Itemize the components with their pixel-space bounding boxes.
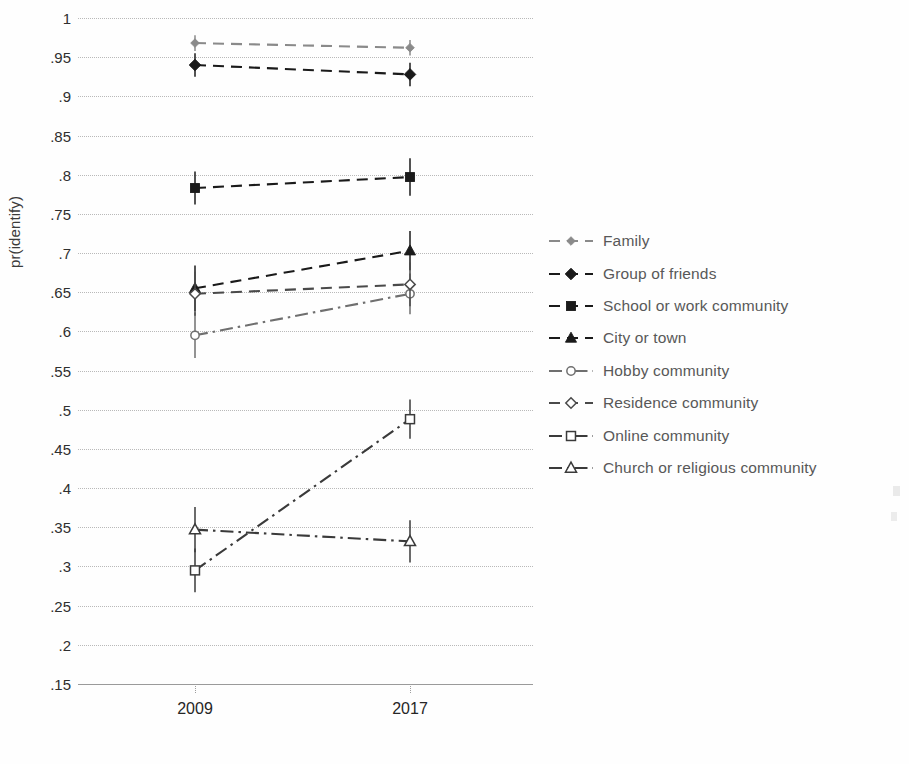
- series-5: [190, 262, 415, 315]
- y-tick-label: 1: [63, 10, 71, 27]
- y-tick-label: .85: [50, 127, 71, 144]
- legend-label: Church or religious community: [594, 459, 817, 477]
- marker-filled-diamond: [565, 268, 577, 280]
- plot-area: 1.95.9.85.8.75.7.65.6.55.5.45.4.35.3.25.…: [78, 0, 533, 700]
- y-tick-label: .8: [58, 166, 71, 183]
- marker-filled-diamond: [189, 59, 201, 71]
- marker-open-diamond: [566, 398, 576, 408]
- series-line: [195, 294, 410, 336]
- y-tick-label: .5: [58, 401, 71, 418]
- legend-symbol-open-triangle-icon: [548, 457, 594, 479]
- legend-symbol-filled-diamond-icon: [548, 263, 594, 285]
- marker-open-circle: [406, 290, 414, 298]
- series-line: [195, 419, 410, 570]
- x-axis-line: [78, 684, 533, 685]
- gridline: [78, 527, 533, 528]
- legend-symbol-filled-square-icon: [548, 295, 594, 317]
- series-4: [191, 273, 414, 358]
- marker-filled-diamond-small: [191, 39, 200, 48]
- legend-label: Family: [594, 232, 650, 250]
- gridline: [78, 410, 533, 411]
- legend-label: Hobby community: [594, 362, 729, 380]
- legend-label: City or town: [594, 329, 687, 347]
- series-2: [191, 158, 415, 204]
- gridline: [78, 606, 533, 607]
- series-line: [195, 530, 410, 542]
- series-line: [195, 251, 410, 289]
- y-tick-label: .65: [50, 284, 71, 301]
- marker-filled-square: [191, 184, 200, 193]
- y-tick-label: .55: [50, 362, 71, 379]
- x-tick-mark: [195, 684, 196, 693]
- legend-item-1[interactable]: Group of friends: [548, 257, 900, 289]
- marker-filled-square: [567, 301, 576, 310]
- gridline: [78, 566, 533, 567]
- legend-item-0[interactable]: Family: [548, 225, 900, 257]
- marker-open-triangle: [404, 536, 415, 546]
- gridline: [78, 488, 533, 489]
- series-7: [189, 507, 415, 563]
- series-3: [189, 231, 415, 311]
- gridline: [78, 371, 533, 372]
- gridline: [78, 645, 533, 646]
- y-tick-label: .95: [50, 49, 71, 66]
- gridline: [78, 175, 533, 176]
- marker-open-diamond: [190, 289, 200, 299]
- x-tick-mark: [410, 684, 411, 693]
- legend-item-3[interactable]: City or town: [548, 322, 900, 354]
- marker-open-triangle: [189, 524, 200, 534]
- y-tick-label: .4: [58, 480, 71, 497]
- gridline: [78, 136, 533, 137]
- y-tick-label: .75: [50, 205, 71, 222]
- legend-label: Residence community: [594, 394, 758, 412]
- gridline: [78, 57, 533, 58]
- marker-filled-diamond-small: [406, 43, 415, 52]
- legend-symbol-open-square-icon: [548, 425, 594, 447]
- y-tick-label: .45: [50, 440, 71, 457]
- marker-filled-diamond-small: [567, 237, 576, 246]
- series-0: [191, 35, 415, 55]
- legend-symbol-filled-triangle-icon: [548, 327, 594, 349]
- legend-item-5[interactable]: Residence community: [548, 387, 900, 419]
- legend-item-7[interactable]: Church or religious community: [548, 452, 900, 484]
- y-tick-label: .35: [50, 519, 71, 536]
- legend-item-4[interactable]: Hobby community: [548, 355, 900, 387]
- gridline: [78, 292, 533, 293]
- y-tick-label: .7: [58, 245, 71, 262]
- legend: FamilyGroup of friendsSchool or work com…: [548, 225, 900, 484]
- y-tick-label: .2: [58, 636, 71, 653]
- gridline: [78, 253, 533, 254]
- marker-open-circle: [567, 367, 575, 375]
- series-6: [191, 400, 415, 593]
- artifact-speck-1: [893, 486, 900, 496]
- series-layer: [78, 0, 533, 700]
- chart-figure: pr(identify) 1.95.9.85.8.75.7.65.6.55.5.…: [0, 0, 909, 764]
- y-tick-label: .3: [58, 558, 71, 575]
- marker-open-square: [567, 431, 576, 440]
- legend-symbol-open-diamond-icon: [548, 392, 594, 414]
- y-tick-label: .25: [50, 597, 71, 614]
- legend-symbol-filled-diamond-small-icon: [548, 230, 594, 252]
- legend-label: School or work community: [594, 297, 788, 315]
- series-line: [195, 65, 410, 74]
- series-1: [189, 53, 416, 86]
- marker-open-diamond: [405, 279, 415, 289]
- gridline: [78, 214, 533, 215]
- x-tick-label: 2017: [392, 700, 428, 718]
- y-axis-title: pr(identify): [6, 108, 23, 268]
- legend-item-6[interactable]: Online community: [548, 419, 900, 451]
- marker-filled-triangle: [189, 282, 200, 292]
- gridline: [78, 449, 533, 450]
- legend-label: Group of friends: [594, 265, 717, 283]
- series-line: [195, 43, 410, 48]
- marker-open-circle: [191, 331, 199, 339]
- artifact-speck-2: [891, 512, 897, 521]
- y-tick-label: .15: [50, 676, 71, 693]
- gridline: [78, 18, 533, 19]
- marker-open-square: [406, 415, 415, 424]
- legend-item-2[interactable]: School or work community: [548, 290, 900, 322]
- y-tick-label: .9: [58, 88, 71, 105]
- legend-symbol-open-circle-icon: [548, 360, 594, 382]
- series-line: [195, 177, 410, 188]
- gridline: [78, 96, 533, 97]
